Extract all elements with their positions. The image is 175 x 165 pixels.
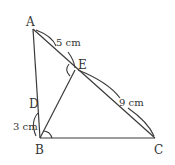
geometry-diagram: A E D B C 5 cm 9 cm 3 cm [0,0,175,165]
label-point-d: D [29,97,39,111]
arc-ae-5cm [36,30,56,46]
arc-ec-9cm-lower [128,108,154,136]
label-length-ae: 5 cm [56,37,81,48]
label-length-ec: 9 cm [119,97,144,108]
label-length-bd: 3 cm [13,121,38,132]
label-point-e: E [78,58,87,72]
angle-mark-e [67,64,70,76]
segment-be [40,70,75,138]
angle-mark-b [43,131,52,138]
label-point-a: A [25,15,35,29]
label-point-b: B [35,143,44,157]
label-point-c: C [154,143,163,157]
segment-ac [33,29,155,138]
